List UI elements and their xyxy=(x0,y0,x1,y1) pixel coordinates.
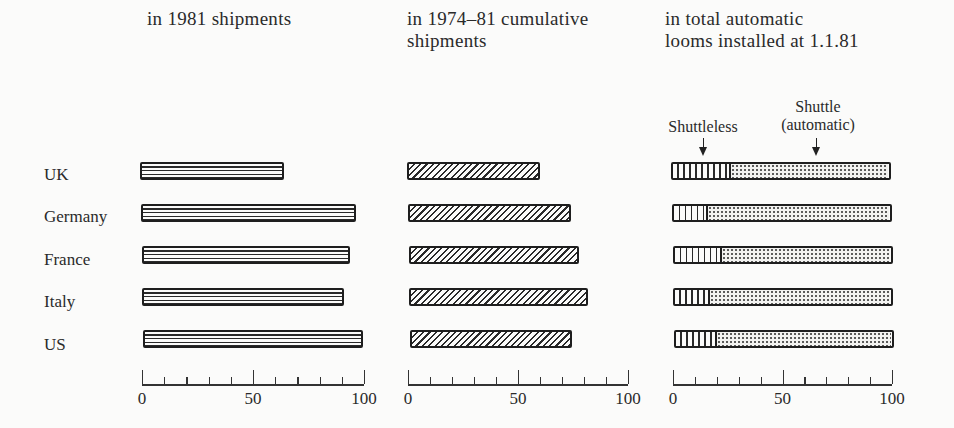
legend-shuttleless: Shuttleless xyxy=(633,118,773,136)
bar-italy xyxy=(673,288,893,306)
bar-uk xyxy=(407,162,540,180)
axis-tick xyxy=(452,377,453,384)
axis-tick-label: 50 xyxy=(774,389,791,409)
segment-shuttleless xyxy=(676,332,717,346)
bar-us xyxy=(410,330,571,348)
axis-tick xyxy=(496,377,497,384)
axis-tick xyxy=(739,377,740,384)
axis-tick xyxy=(518,370,519,384)
axis-tick-label: 0 xyxy=(404,389,413,409)
bar-uk xyxy=(671,162,891,180)
axis-tick-label: 100 xyxy=(879,389,905,409)
axis-tick xyxy=(320,377,321,384)
axis-tick-label: 50 xyxy=(245,389,262,409)
axis-tick xyxy=(628,370,629,384)
segment-shuttleless xyxy=(673,164,731,178)
axis-tick xyxy=(342,377,343,384)
segment-shuttle xyxy=(710,290,891,304)
axis-tick xyxy=(209,377,210,384)
x-axis-line xyxy=(673,384,892,386)
axis-tick xyxy=(804,377,805,384)
segment-shuttleless xyxy=(675,290,709,304)
axis-tick xyxy=(364,370,365,384)
axis-tick xyxy=(142,370,143,384)
segment-shuttleless xyxy=(674,206,708,220)
axis-tick-label: 100 xyxy=(615,389,641,409)
bar-italy xyxy=(142,288,344,306)
axis-tick xyxy=(673,370,674,384)
axis-tick xyxy=(848,377,849,384)
row-label-france: France xyxy=(44,250,90,270)
shuttle-arrow-icon xyxy=(816,138,817,154)
bar-france xyxy=(673,246,893,264)
segment-shuttle xyxy=(708,206,889,220)
axis-tick xyxy=(164,377,165,384)
axis-tick xyxy=(892,370,893,384)
segment-shuttle xyxy=(731,164,888,178)
bar-italy xyxy=(409,288,588,306)
row-label-uk: UK xyxy=(44,165,69,185)
axis-tick-label: 0 xyxy=(138,389,147,409)
axis-tick-label: 50 xyxy=(510,389,527,409)
shuttleless-arrow-icon xyxy=(703,138,704,154)
axis-tick xyxy=(826,377,827,384)
bar-us xyxy=(143,330,363,348)
axis-tick xyxy=(231,377,232,384)
bar-germany xyxy=(408,204,572,222)
axis-tick xyxy=(761,377,762,384)
axis-tick xyxy=(540,377,541,384)
panel3-title: in total automatic looms installed at 1.… xyxy=(665,8,859,52)
axis-tick xyxy=(474,377,475,384)
axis-tick xyxy=(408,370,409,384)
axis-tick xyxy=(870,377,871,384)
legend-shuttle: Shuttle (automatic) xyxy=(768,98,868,134)
segment-shuttleless xyxy=(675,248,722,262)
axis-tick xyxy=(430,377,431,384)
panel1-title: in 1981 shipments xyxy=(147,8,291,30)
row-label-us: US xyxy=(44,335,66,355)
axis-tick xyxy=(275,377,276,384)
axis-tick xyxy=(186,377,187,384)
axis-tick xyxy=(695,377,696,384)
panel2-title: in 1974–81 cumulative shipments xyxy=(407,8,589,52)
segment-shuttle xyxy=(717,332,891,346)
bar-uk xyxy=(140,162,284,180)
axis-tick xyxy=(783,370,784,384)
bar-us xyxy=(674,330,894,348)
row-label-germany: Germany xyxy=(44,207,107,227)
row-label-italy: Italy xyxy=(44,292,75,312)
bar-germany xyxy=(141,204,356,222)
bar-france xyxy=(409,246,579,264)
bar-france xyxy=(142,246,351,264)
x-axis-line xyxy=(142,384,364,386)
axis-tick xyxy=(253,370,254,384)
x-axis-line xyxy=(408,384,628,386)
axis-tick-label: 100 xyxy=(351,389,377,409)
segment-shuttle xyxy=(722,248,890,262)
axis-tick xyxy=(562,377,563,384)
bar-germany xyxy=(672,204,892,222)
axis-tick xyxy=(717,377,718,384)
axis-tick xyxy=(297,377,298,384)
axis-tick xyxy=(606,377,607,384)
axis-tick-label: 0 xyxy=(669,389,678,409)
axis-tick xyxy=(584,377,585,384)
